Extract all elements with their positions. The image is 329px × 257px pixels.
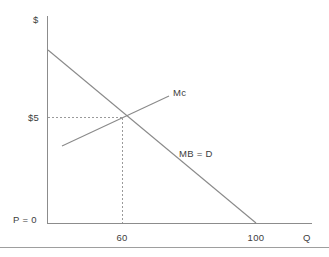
marginal-cost-curve-label: Mc — [173, 87, 186, 98]
y-tick-label-5: $5 — [28, 112, 39, 123]
chart-screenshot: $ Q P = 0 $5 60 100 Mc MB = D — [0, 0, 329, 257]
demand-curve — [48, 50, 256, 223]
demand-curve-label: MB = D — [179, 148, 213, 159]
supply-demand-chart: $ Q P = 0 $5 60 100 Mc MB = D — [0, 0, 329, 257]
x-tick-label-60: 60 — [116, 232, 127, 243]
origin-label: P = 0 — [13, 214, 37, 225]
x-axis-title: Q — [303, 232, 311, 243]
marginal-cost-curve — [62, 96, 169, 146]
footer-divider — [0, 247, 329, 248]
x-tick-label-100: 100 — [248, 232, 265, 243]
y-axis-title: $ — [33, 14, 39, 25]
